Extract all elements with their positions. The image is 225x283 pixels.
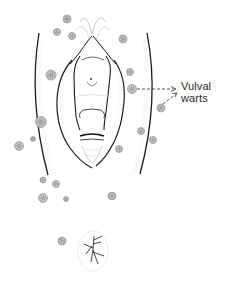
- anus: [78, 231, 108, 271]
- anatomical-line-drawing: [0, 0, 225, 283]
- wart: [15, 142, 24, 151]
- vulval-warts-label: Vulval warts: [181, 80, 211, 104]
- labia-outline: [57, 60, 124, 168]
- wart: [119, 35, 127, 43]
- label-line-2: warts: [181, 92, 211, 104]
- wart: [53, 181, 60, 188]
- wart: [116, 146, 123, 153]
- wart: [54, 29, 61, 36]
- leader-arrows: [137, 87, 177, 105]
- wart: [58, 237, 66, 245]
- wart: [69, 33, 76, 40]
- wart: [138, 128, 145, 135]
- wart: [128, 85, 137, 94]
- vaginal-opening: [80, 109, 105, 164]
- wart: [31, 137, 36, 142]
- wart: [39, 194, 48, 203]
- wart: [157, 104, 165, 112]
- wart: [46, 70, 56, 80]
- wart: [36, 117, 47, 128]
- central-features: [87, 78, 97, 86]
- labia-minora: [74, 56, 111, 130]
- wart: [127, 69, 134, 76]
- thigh-contours: [35, 33, 152, 175]
- wart: [64, 197, 69, 202]
- label-line-1: Vulval: [181, 80, 211, 92]
- wart: [150, 137, 157, 144]
- wart: [63, 15, 71, 23]
- wart: [40, 177, 46, 183]
- wart: [108, 192, 116, 200]
